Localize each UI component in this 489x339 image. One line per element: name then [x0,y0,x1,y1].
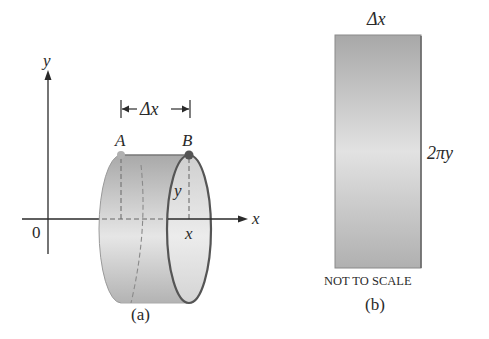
y-axis-label: y [41,51,51,70]
origin-label: 0 [32,223,41,242]
x-axis-label: x [251,209,260,228]
rect-height-label: 2πy [427,143,453,163]
delta-arrowhead-left-icon [122,106,129,113]
y-axis-arrowhead-icon [45,70,52,80]
unrolled-rectangle [335,35,421,268]
point-b-marker [185,151,194,160]
delta-x-label: Δx [139,99,159,119]
x-axis-arrowhead-icon [238,216,248,223]
panel-a: y x 0 A B y x [22,51,260,324]
caption-a: (a) [131,305,150,324]
panel-b: Δx 2πy NOT TO SCALE (b) [324,9,453,314]
x-position-label: x [184,224,193,243]
point-a-marker [117,151,125,159]
figure-canvas: y x 0 A B y x [0,0,489,339]
point-b-label: B [182,131,193,150]
not-to-scale-note: NOT TO SCALE [324,274,412,288]
rect-width-label: Δx [366,9,386,29]
radius-label: y [172,181,182,200]
point-a-label: A [114,131,126,150]
delta-arrowhead-right-icon [182,106,189,113]
caption-b: (b) [365,295,385,314]
